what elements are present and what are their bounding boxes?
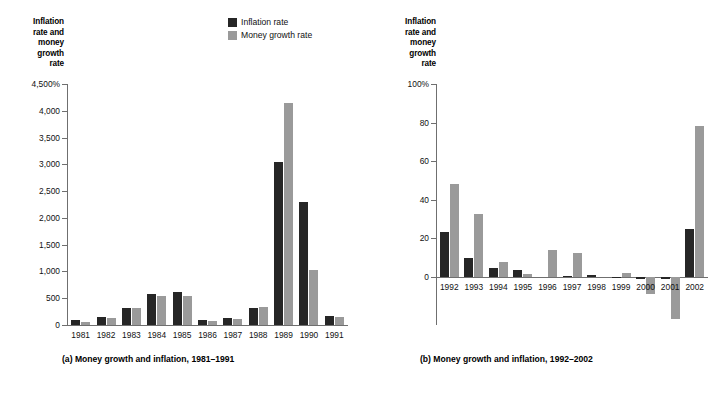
bar-money-growth-rate bbox=[284, 103, 293, 325]
y-tick bbox=[431, 123, 436, 124]
bar-money-growth-rate bbox=[695, 126, 704, 276]
bar-group bbox=[274, 84, 293, 325]
bar-money-growth-rate bbox=[183, 296, 192, 325]
x-tick-label: 1997 bbox=[563, 282, 582, 292]
y-tick bbox=[62, 164, 67, 165]
bar-money-growth-rate bbox=[81, 322, 90, 325]
bar-inflation-rate bbox=[274, 162, 283, 325]
legend-swatch-inflation bbox=[228, 18, 237, 27]
legend-item-money-growth: Money growth rate bbox=[228, 30, 312, 41]
y-tick-label: 40 bbox=[420, 195, 429, 205]
x-tick-label: 2000 bbox=[636, 282, 655, 292]
bar-money-growth-rate bbox=[208, 321, 217, 325]
y-axis-title-line: rate and bbox=[2, 28, 64, 39]
y-tick-label: 0 bbox=[424, 272, 429, 282]
y-tick bbox=[431, 84, 436, 85]
caption-b: (b) Money growth and inflation, 1992–200… bbox=[420, 354, 593, 364]
bar-group bbox=[325, 84, 344, 325]
bar-inflation-rate bbox=[122, 308, 131, 325]
y-tick-label: 500 bbox=[46, 293, 60, 303]
bar-inflation-rate bbox=[661, 277, 670, 279]
bar-inflation-rate bbox=[299, 202, 308, 325]
x-tick-label: 1993 bbox=[464, 282, 483, 292]
bar-money-growth-rate bbox=[622, 273, 631, 277]
bar-inflation-rate bbox=[97, 317, 106, 325]
y-tick bbox=[431, 200, 436, 201]
legend-a: Inflation rate Money growth rate bbox=[228, 17, 312, 43]
bar-money-growth-rate bbox=[523, 274, 532, 277]
y-tick-label: 20 bbox=[420, 233, 429, 243]
bar-inflation-rate bbox=[325, 316, 334, 325]
x-tick-label: 1999 bbox=[612, 282, 631, 292]
y-axis-title-b: Inflation rate and money growth rate bbox=[374, 17, 436, 70]
y-tick bbox=[431, 277, 436, 278]
y-tick bbox=[62, 218, 67, 219]
x-tick-label: 1988 bbox=[249, 330, 268, 340]
y-tick bbox=[62, 138, 67, 139]
x-tick-label: 2002 bbox=[685, 282, 704, 292]
x-tick-label: 1998 bbox=[587, 282, 606, 292]
y-tick-label: 100% bbox=[408, 79, 429, 89]
figure-container: Inflation rate and money growth rate Inf… bbox=[0, 0, 728, 403]
x-tick-label: 1986 bbox=[198, 330, 217, 340]
y-tick bbox=[62, 84, 67, 85]
y-tick-label: 4,000 bbox=[39, 106, 60, 116]
y-axis-title-line: rate bbox=[2, 59, 64, 70]
bar-group bbox=[299, 84, 318, 325]
x-tick-label: 1996 bbox=[538, 282, 557, 292]
bar-inflation-rate bbox=[173, 292, 182, 325]
legend-label-inflation: Inflation rate bbox=[241, 17, 288, 28]
bar-money-growth-rate bbox=[499, 262, 508, 276]
y-tick bbox=[62, 191, 67, 192]
bar-money-growth-rate bbox=[474, 214, 483, 277]
bar-money-growth-rate bbox=[335, 317, 344, 325]
bar-money-growth-rate bbox=[107, 318, 116, 325]
y-axis-title-line: growth bbox=[2, 49, 64, 60]
x-tick-label: 1994 bbox=[489, 282, 508, 292]
y-tick bbox=[62, 298, 67, 299]
bar-inflation-rate bbox=[612, 277, 621, 279]
y-tick-label: 1,000 bbox=[39, 266, 60, 276]
x-tick-label: 1982 bbox=[97, 330, 116, 340]
y-tick bbox=[431, 161, 436, 162]
y-axis-title-a: Inflation rate and money growth rate bbox=[2, 17, 64, 70]
y-tick-label: 2,500 bbox=[39, 186, 60, 196]
bar-inflation-rate bbox=[587, 275, 596, 277]
bar-money-growth-rate bbox=[233, 319, 242, 325]
x-tick-label: 1981 bbox=[71, 330, 90, 340]
x-tick-label: 1990 bbox=[300, 330, 319, 340]
plot-area-a: 05001,0001,5002,0002,5003,0003,5004,0004… bbox=[67, 84, 348, 325]
caption-a: (a) Money growth and inflation, 1981–199… bbox=[62, 354, 234, 364]
bar-inflation-rate bbox=[147, 294, 156, 325]
legend-swatch-money-growth bbox=[228, 31, 237, 40]
bar-inflation-rate bbox=[71, 320, 80, 325]
y-axis-title-line: money bbox=[2, 38, 64, 49]
x-tick-label: 1992 bbox=[440, 282, 459, 292]
y-tick-label: 1,500 bbox=[39, 240, 60, 250]
x-tick-label: 1987 bbox=[224, 330, 243, 340]
x-tick-label: 1985 bbox=[173, 330, 192, 340]
y-tick-label: 0 bbox=[55, 320, 60, 330]
x-tick-label: 1995 bbox=[514, 282, 533, 292]
y-axis-title-line: Inflation bbox=[374, 17, 436, 28]
bar-inflation-rate bbox=[685, 229, 694, 277]
y-tick bbox=[62, 271, 67, 272]
chart-panel-a: Inflation rate and money growth rate Inf… bbox=[0, 0, 364, 403]
bar-group bbox=[198, 84, 217, 325]
x-tick-label: 2001 bbox=[661, 282, 680, 292]
x-tick-label: 1983 bbox=[122, 330, 141, 340]
y-axis-title-line: Inflation bbox=[2, 17, 64, 28]
y-tick-label: 2,000 bbox=[39, 213, 60, 223]
y-axis-title-line: money bbox=[374, 38, 436, 49]
bar-inflation-rate bbox=[198, 320, 207, 325]
x-axis-line-a bbox=[67, 325, 348, 326]
y-axis-title-line: growth bbox=[374, 49, 436, 60]
x-tick-label: 1991 bbox=[325, 330, 344, 340]
y-tick bbox=[62, 111, 67, 112]
bar-inflation-rate bbox=[223, 318, 232, 325]
bar-money-growth-rate bbox=[259, 307, 268, 325]
y-axis-title-line: rate bbox=[374, 59, 436, 70]
chart-panel-b: Inflation rate and money growth rate Inf… bbox=[364, 0, 728, 403]
bar-group bbox=[71, 84, 90, 325]
bar-inflation-rate bbox=[489, 268, 498, 277]
